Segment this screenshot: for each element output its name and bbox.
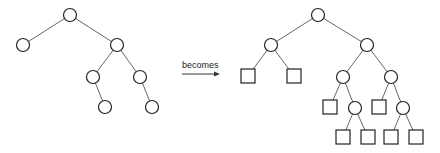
before-node-circle bbox=[17, 39, 30, 52]
before-edge bbox=[70, 15, 117, 45]
arrow-label: becomes bbox=[182, 60, 219, 70]
after-leaf-square bbox=[361, 130, 375, 144]
after-tree bbox=[241, 9, 423, 145]
after-edge bbox=[271, 15, 318, 45]
after-node-circle bbox=[349, 102, 362, 115]
after-node-circle bbox=[361, 39, 374, 52]
after-leaf-square bbox=[384, 130, 398, 144]
after-leaf-square bbox=[409, 130, 423, 144]
before-node-circle bbox=[87, 71, 100, 84]
after-edge bbox=[318, 15, 367, 45]
after-node-circle bbox=[385, 71, 398, 84]
before-edge bbox=[23, 15, 70, 45]
after-leaf-square bbox=[323, 100, 337, 114]
after-node-circle bbox=[312, 9, 325, 22]
after-leaf-square bbox=[287, 69, 301, 83]
before-node-circle bbox=[64, 9, 77, 22]
after-node-circle bbox=[397, 102, 410, 115]
tree-diagram bbox=[0, 0, 440, 153]
after-leaf-square bbox=[241, 69, 255, 83]
after-node-circle bbox=[337, 71, 350, 84]
after-node-circle bbox=[265, 39, 278, 52]
before-node-circle bbox=[134, 71, 147, 84]
before-node-circle bbox=[146, 101, 159, 114]
after-leaf-square bbox=[372, 100, 386, 114]
becomes-arrow bbox=[182, 72, 220, 77]
after-leaf-square bbox=[336, 130, 350, 144]
before-node-circle bbox=[99, 101, 112, 114]
before-tree bbox=[17, 9, 159, 114]
before-node-circle bbox=[111, 39, 124, 52]
